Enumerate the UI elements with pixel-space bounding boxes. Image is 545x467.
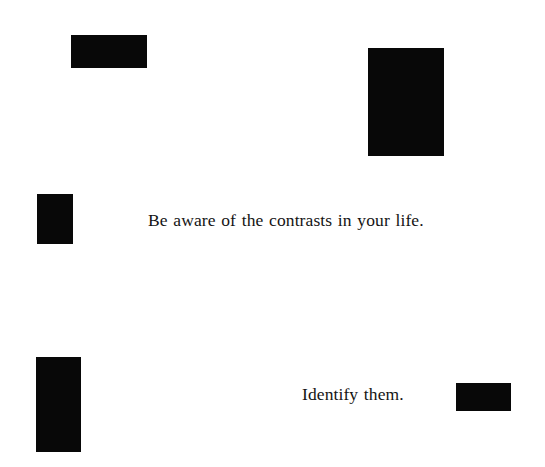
black-rectangle-middle-left [37,194,73,244]
black-rectangle-bottom-left [36,357,81,452]
secondary-caption: Identify them. [302,386,404,404]
black-rectangle-top-right [368,48,444,156]
black-rectangle-top-left [71,35,147,68]
black-rectangle-bottom-right [456,383,511,411]
primary-caption: Be aware of the contrasts in your life. [148,212,424,230]
poster-canvas: Be aware of the contrasts in your life.I… [0,0,545,467]
